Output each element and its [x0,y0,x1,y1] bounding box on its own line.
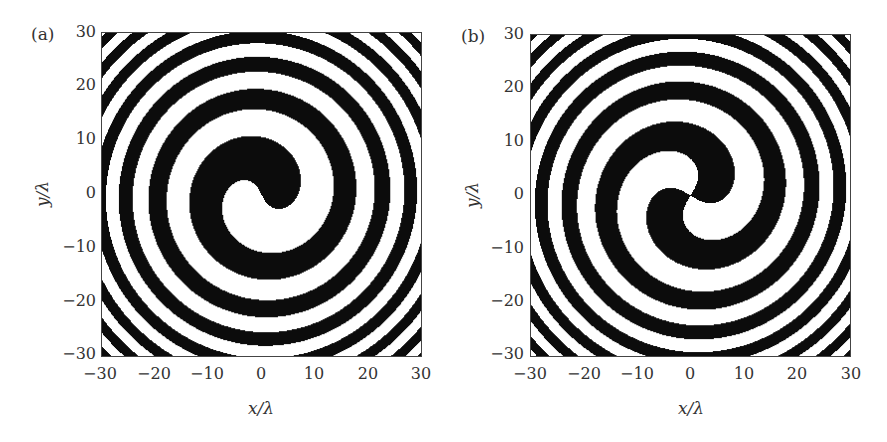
x-axis-label: x/λ [661,398,721,418]
x-tick: 20 [777,366,817,382]
x-tick: −20 [564,366,604,382]
y-tick: −10 [56,239,96,255]
panel-a: (a) 30 20 10 0 −10 −20 −30 y/λ −30 −20 −… [0,0,440,442]
y-tick: 20 [56,77,96,93]
panel-b: (b) 30 20 10 0 −10 −20 −30 y/λ −30 −20 −… [430,0,870,442]
x-tick: −20 [134,366,174,382]
y-tick: 10 [484,133,524,149]
x-axis-label: x/λ [231,398,291,418]
panel-label: (a) [31,24,54,44]
spiral-plot-a [101,32,422,357]
spiral-pattern-two-arm [531,35,850,356]
y-axis-label: y/λ [462,165,482,225]
x-tick: −30 [80,366,120,382]
y-tick: 10 [56,131,96,147]
x-tick: 0 [241,366,281,382]
y-tick: −20 [56,293,96,309]
panel-label: (b) [461,26,485,46]
x-tick: 10 [724,366,764,382]
y-tick: 30 [484,26,524,42]
y-tick: −10 [484,240,524,256]
y-tick: 20 [484,79,524,95]
y-tick: 0 [56,185,96,201]
y-tick: 0 [484,186,524,202]
x-tick: 30 [831,366,871,382]
x-tick: −10 [617,366,657,382]
x-tick: −10 [187,366,227,382]
y-tick: −20 [484,293,524,309]
y-axis-label: y/λ [32,164,52,224]
y-tick: −30 [56,346,96,362]
x-tick: 10 [294,366,334,382]
spiral-plot-b [530,34,851,357]
y-tick: 30 [56,24,96,40]
x-tick: 20 [348,366,388,382]
y-tick: −30 [484,346,524,362]
spiral-pattern-single-arm [102,33,421,356]
x-tick: −30 [510,366,550,382]
x-tick: 0 [670,366,710,382]
